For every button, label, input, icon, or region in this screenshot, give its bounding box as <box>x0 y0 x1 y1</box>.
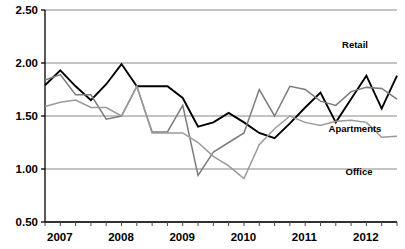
ytick-label-1.50: 1.50 <box>16 110 38 122</box>
line-chart: 0.501.001.502.002.5020072008200920102011… <box>0 0 405 249</box>
series-label-office: Office <box>346 166 373 177</box>
xtick-label-2011: 2011 <box>292 231 318 243</box>
ytick-label-1.00: 1.00 <box>16 163 38 175</box>
xtick-label-2010: 2010 <box>231 231 257 243</box>
series-label-retail: Retail <box>342 39 368 50</box>
ytick-label-0.50: 0.50 <box>16 216 38 228</box>
xtick-label-2007: 2007 <box>47 231 73 243</box>
ytick-label-2.50: 2.50 <box>16 4 38 16</box>
xtick-label-2012: 2012 <box>353 231 379 243</box>
series-label-apartments: Apartments <box>329 123 382 134</box>
xtick-label-2008: 2008 <box>108 231 134 243</box>
chart-container: 0.501.001.502.002.5020072008200920102011… <box>0 0 405 249</box>
xtick-label-2009: 2009 <box>169 231 195 243</box>
ytick-label-2.00: 2.00 <box>16 57 38 69</box>
